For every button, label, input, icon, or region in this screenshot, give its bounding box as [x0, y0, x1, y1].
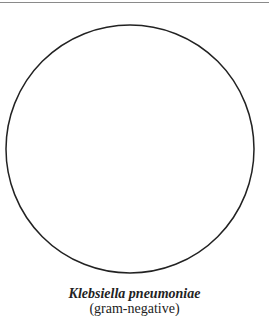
figure-caption: Klebsiella pneumoniae (gram-negative) — [0, 286, 269, 316]
bacterium-cell-diagram — [0, 0, 269, 285]
cell-outline-circle — [6, 25, 254, 273]
caption-subtitle: (gram-negative) — [0, 301, 269, 316]
caption-title: Klebsiella pneumoniae — [0, 286, 269, 301]
